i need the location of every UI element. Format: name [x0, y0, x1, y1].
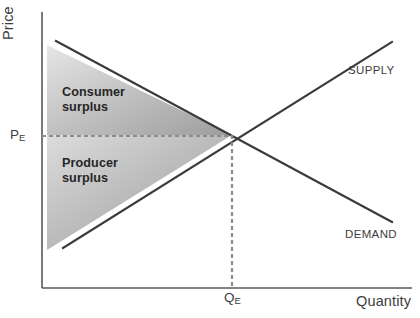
- consumer-surplus-label-line1: Consumer: [62, 85, 125, 99]
- consumer-surplus-label-line2: surplus: [62, 100, 108, 114]
- producer-surplus-label-line1: Producer: [62, 156, 118, 170]
- quantity-equilibrium-symbol: Q: [224, 290, 235, 305]
- producer-surplus-label-line2: surplus: [62, 171, 108, 185]
- price-equilibrium-tick-label: PE: [10, 127, 26, 143]
- consumer-surplus-label: Consumersurplus: [62, 85, 125, 115]
- price-equilibrium-symbol: P: [10, 127, 19, 142]
- quantity-equilibrium-subscript: E: [235, 295, 242, 306]
- supply-demand-figure: Price Quantity PE QE SUPPLY DEMAND Consu…: [0, 0, 420, 318]
- y-axis-title: Price: [0, 0, 22, 40]
- producer-surplus-region: [47, 135, 232, 250]
- x-axis-title: Quantity: [356, 293, 411, 310]
- producer-surplus-label: Producersurplus: [62, 156, 118, 186]
- quantity-equilibrium-tick-label: QE: [224, 290, 241, 306]
- demand-curve-label: DEMAND: [345, 228, 397, 242]
- supply-curve-label: SUPPLY: [348, 64, 395, 78]
- price-equilibrium-subscript: E: [19, 132, 26, 143]
